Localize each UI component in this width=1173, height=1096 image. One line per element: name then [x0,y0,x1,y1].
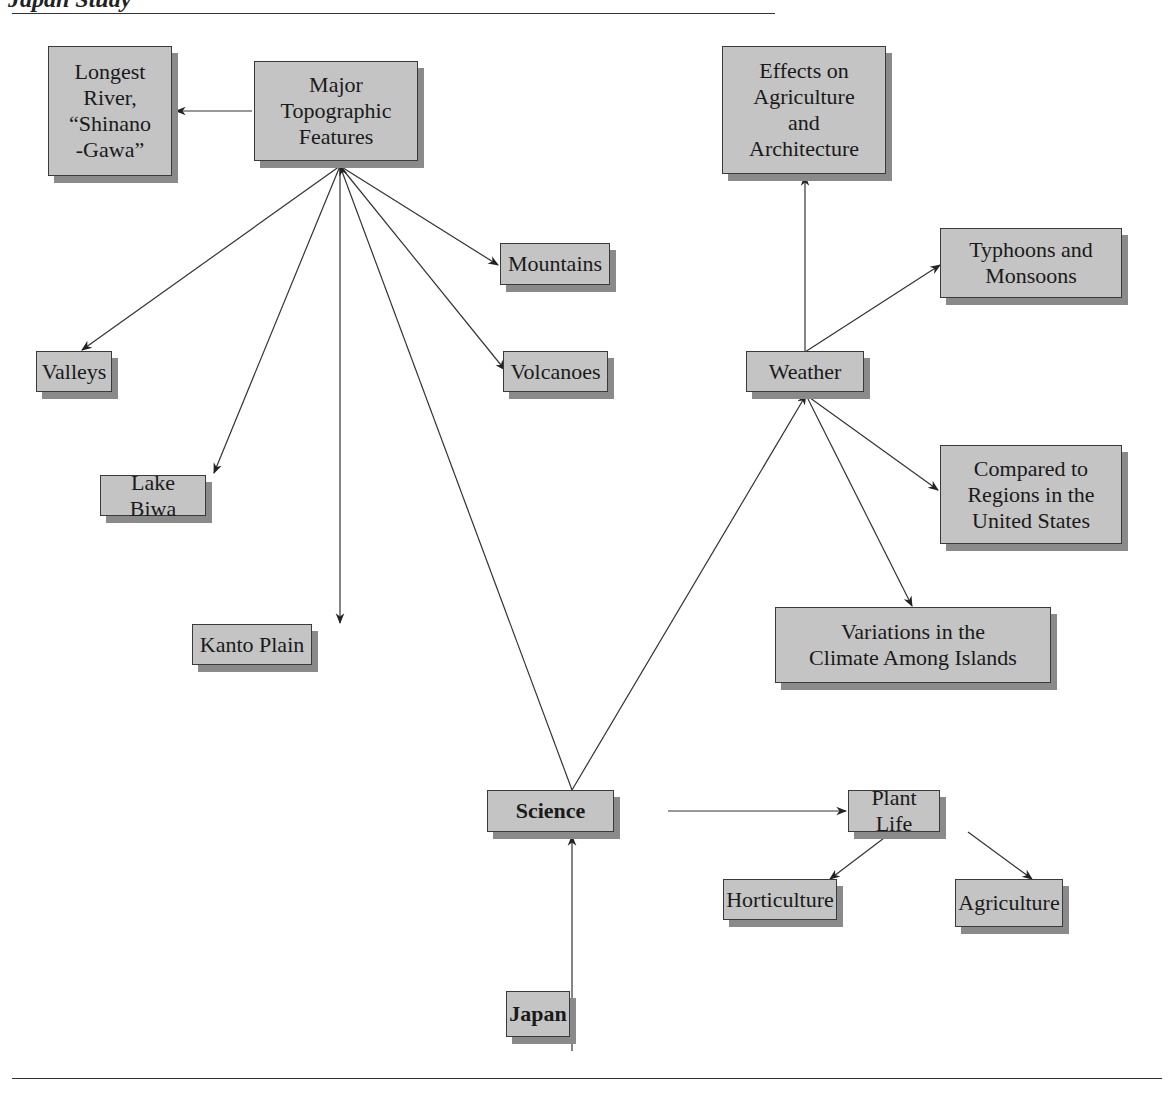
node-kanto-plain: Kanto Plain [192,624,312,665]
node-lake-biwa: Lake Biwa [100,475,206,516]
node-agriculture: Agriculture [955,879,1063,927]
node-effects-agriculture-architecture: Effects on Agriculture and Architecture [722,46,886,174]
node-weather: Weather [746,351,864,392]
node-major-topographic-features: Major Topographic Features [254,61,418,161]
node-plant-life: Plant Life [848,790,940,832]
node-typhoons-monsoons: Typhoons and Monsoons [940,228,1122,298]
node-science: Science [487,790,614,832]
node-mountains: Mountains [500,243,610,285]
node-japan: Japan [506,991,570,1037]
node-variations-in-climate: Variations in the Climate Among Islands [775,607,1051,683]
node-volcanoes: Volcanoes [503,351,608,392]
node-valleys: Valleys [36,351,112,392]
node-horticulture: Horticulture [723,879,837,920]
node-longest-river: Longest River, “Shinano -Gawa” [48,46,172,176]
connector-lines [0,0,1173,1096]
node-compared-to-regions: Compared to Regions in the United States [940,445,1122,544]
